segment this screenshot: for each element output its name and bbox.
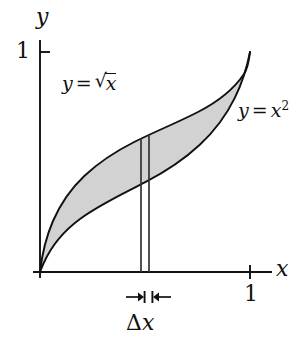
- curve-label-x-squared: y=x2: [238, 101, 289, 120]
- area-between-curves-plot: [0, 0, 306, 353]
- sqrt-radical-group: √x: [95, 73, 117, 93]
- delta-variable: x: [142, 310, 154, 335]
- radical-overbar: [105, 73, 116, 74]
- delta-symbol: Δ: [126, 310, 142, 335]
- delta-x-dimension-annotation: [126, 291, 171, 303]
- delta-x-label: Δx: [126, 312, 154, 334]
- x-axis-tick-label-1: 1: [244, 283, 258, 305]
- square-label-equals: =: [249, 99, 271, 121]
- square-label-lhs: y: [238, 99, 249, 121]
- sqrt-radicand: x: [106, 72, 117, 94]
- square-label-base: x: [271, 99, 282, 121]
- sqrt-label-equals: =: [73, 72, 95, 94]
- square-label-exponent: 2: [281, 99, 289, 113]
- delta-x-right-arrowhead: [153, 292, 159, 301]
- sqrt-label-lhs: y: [62, 72, 73, 94]
- y-axis-label: y: [36, 6, 48, 28]
- delta-x-left-arrowhead: [138, 292, 144, 301]
- figure-container: y x 1 1 y=√x y=x2 Δx: [0, 0, 306, 353]
- x-axis-label: x: [276, 258, 288, 280]
- y-axis-tick-label-1: 1: [16, 40, 30, 62]
- curve-label-sqrt-x: y=√x: [62, 73, 116, 93]
